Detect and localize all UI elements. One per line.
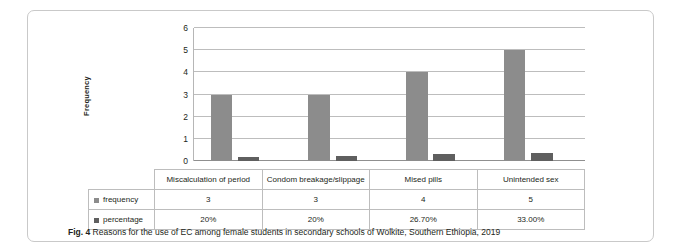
figure-caption-text: Reasons for the use of EC among female s… xyxy=(93,227,501,237)
chart-data-table: Miscalculation of periodCondom breakage/… xyxy=(88,169,585,230)
y-axis-tick: 5 xyxy=(183,45,188,55)
bar-percentage xyxy=(238,157,260,161)
table-category-header: Miscalculation of period xyxy=(155,170,263,190)
y-axis-tick: 3 xyxy=(183,90,188,100)
figure-frame: Frequency 0123456 Miscalculation of peri… xyxy=(27,10,654,242)
y-axis-title: Frequency xyxy=(82,58,91,134)
legend-swatch-icon xyxy=(94,218,99,223)
y-axis-tick: 0 xyxy=(183,156,188,166)
bar-group xyxy=(390,28,488,161)
table-row: frequency3345 xyxy=(89,190,585,210)
bar-percentage xyxy=(531,153,553,161)
table-cell-frequency: 5 xyxy=(477,190,585,210)
y-axis-tick: 6 xyxy=(183,23,188,33)
y-axis-tick: 2 xyxy=(183,112,188,122)
bar-frequency xyxy=(211,95,233,162)
legend-label: frequency xyxy=(103,195,138,204)
table-category-header: Unintended sex xyxy=(477,170,585,190)
bar-frequency xyxy=(308,95,330,162)
table-cell-frequency: 3 xyxy=(155,190,263,210)
legend-swatch-icon xyxy=(94,198,99,203)
figure-number: Fig. 4 xyxy=(68,227,90,237)
figure-caption: Fig. 4 Reasons for the use of EC among f… xyxy=(68,227,668,238)
table-corner-cell xyxy=(89,170,155,190)
bar-groups xyxy=(194,28,585,161)
plot-area: 0123456 xyxy=(193,28,585,161)
y-axis-tick: 1 xyxy=(183,134,188,144)
legend-label: percentage xyxy=(103,215,143,224)
bar-frequency xyxy=(504,50,526,161)
table-cell-frequency: 3 xyxy=(262,190,370,210)
legend-entry-frequency: frequency xyxy=(89,190,155,210)
bar-frequency xyxy=(406,72,428,161)
bar-percentage xyxy=(433,154,455,161)
chart-area: Frequency 0123456 xyxy=(88,24,598,174)
bar-group xyxy=(487,28,585,161)
bar-percentage xyxy=(336,156,358,161)
table-row-categories: Miscalculation of periodCondom breakage/… xyxy=(89,170,585,190)
table-category-header: Condom breakage/slippage xyxy=(262,170,370,190)
y-axis-tick: 4 xyxy=(183,67,188,77)
figure-root: Frequency 0123456 Miscalculation of peri… xyxy=(0,0,680,252)
bar-group xyxy=(292,28,390,161)
table-cell-frequency: 4 xyxy=(370,190,478,210)
bar-group xyxy=(194,28,292,161)
table-category-header: Mised pills xyxy=(370,170,478,190)
